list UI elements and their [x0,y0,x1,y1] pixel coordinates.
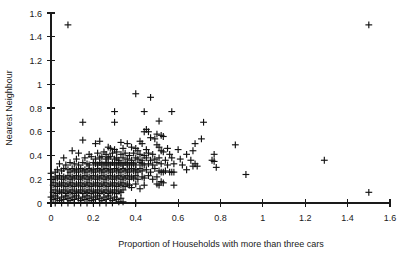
x-tick-label: 0.8 [214,213,227,223]
data-point [156,118,163,125]
x-tick-labels: 00.20.40.60.811.21.41.6 [48,213,396,223]
data-point [170,160,177,167]
data-point [132,200,139,207]
data-point [198,135,205,142]
data-point [147,94,154,101]
data-point [183,166,190,173]
data-point [321,157,328,164]
data-point [168,108,175,115]
data-point [192,140,199,147]
x-tick-label: 0 [48,213,53,223]
data-point [48,170,55,177]
data-point [65,21,72,28]
data-point [200,119,207,126]
x-tick-label: 0.4 [129,213,142,223]
data-point [147,134,154,141]
data-point [111,119,118,126]
data-point [141,182,148,189]
y-axis-title: Nearest Neighbour [4,70,14,146]
data-point [69,147,76,154]
data-point [164,145,171,152]
x-tick-label: 0.6 [172,213,185,223]
x-tick-label: 1 [260,213,265,223]
y-tick-label: 1 [37,80,42,90]
y-tick-label: 1.2 [29,56,42,66]
data-point [132,90,139,97]
data-point [79,119,86,126]
data-point [190,147,197,154]
data-point [111,108,118,115]
y-tick-label: 0.2 [29,175,42,185]
x-tick-label: 1.4 [341,213,354,223]
data-point [365,189,372,196]
y-tick-label: 1.4 [29,32,42,42]
y-tick-label: 0.8 [29,104,42,114]
y-tick-label: 0 [37,199,42,209]
y-tick-label: 1.6 [29,9,42,19]
data-point [79,137,86,144]
data-point [56,160,63,167]
x-tick-label: 0.2 [87,213,100,223]
data-point [179,162,186,169]
data-point [175,146,182,153]
data-point [158,160,165,167]
plot-area: 00.20.40.60.811.21.41.6 00.20.40.60.811.… [0,0,406,256]
x-axis-title: Proportion of Households with more than … [118,239,324,249]
data-point [75,150,82,157]
x-tick-label: 1.2 [299,213,312,223]
data-point [177,156,184,163]
data-point [60,154,67,161]
data-point [118,139,125,146]
data-point [211,151,218,158]
data-point [137,185,144,192]
data-point [232,141,239,148]
data-point [128,144,135,151]
data-point [365,21,372,28]
data-point [243,171,250,178]
data-point [213,164,220,171]
data-point [141,108,148,115]
data-point [183,151,190,158]
data-point [170,182,177,189]
y-tick-labels: 00.20.40.60.811.21.41.6 [29,9,42,209]
data-point [124,140,131,147]
y-tick-label: 0.4 [29,151,42,161]
data-point [187,157,194,164]
data-points-group [48,21,373,206]
y-tick-label: 0.6 [29,127,42,137]
x-tick-label: 1.6 [384,213,397,223]
scatter-chart: 00.20.40.60.811.21.41.6 00.20.40.60.811.… [0,0,406,256]
